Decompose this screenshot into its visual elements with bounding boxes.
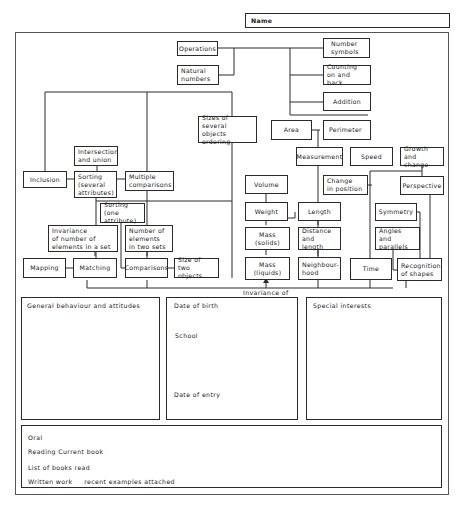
node-comparisons: Comparisons — [125, 258, 168, 278]
special-interests-title: Special interests — [313, 302, 371, 309]
panel-special-interests[interactable]: Special interests — [306, 297, 442, 420]
node-growth: Growth and change — [400, 147, 444, 166]
reading-label: Reading Current book — [28, 448, 103, 455]
invariance-label: Invariance of — [243, 289, 289, 296]
node-measurement: Measurement — [296, 147, 343, 166]
node-mapping: Mapping — [23, 258, 66, 278]
node-counting: Counting on and back — [323, 65, 371, 85]
node-angles: Angles and parallels — [375, 227, 420, 250]
written-work-label: Written work recent examples attached — [28, 478, 175, 485]
node-distance-length: Distance and length — [298, 227, 341, 250]
node-mass-solids: Mass (solids) — [245, 227, 290, 250]
node-number-symbols: Number symbols — [323, 38, 370, 58]
date-of-birth-label: Date of birth — [174, 302, 218, 309]
node-number-elements: Number of elements in two sets — [125, 225, 173, 252]
node-multiple-comparisons: Multiple comparisons — [125, 171, 174, 191]
panel-general-title: General behaviour and attitudes — [27, 302, 140, 309]
node-time: Time — [350, 258, 392, 280]
node-matching: Matching — [73, 258, 117, 278]
node-operations: Operations — [177, 41, 218, 56]
node-speed: Speed — [350, 147, 393, 166]
school-label: School — [175, 332, 198, 339]
node-addition: Addition — [323, 92, 371, 111]
node-length: Length — [298, 202, 341, 221]
node-area: Area — [271, 120, 312, 140]
panel-personal-details[interactable]: Date of birth School Date of entry — [166, 297, 298, 420]
node-size-two: Size of two objects — [174, 258, 219, 278]
node-sorting-one: Sorting (one attribute) — [100, 203, 145, 223]
date-of-entry-label: Date of entry — [174, 391, 220, 398]
panel-general-behaviour[interactable]: General behaviour and attitudes — [21, 297, 160, 420]
node-mass-liquids: Mass (liquids) — [245, 257, 290, 280]
node-sizes-several: Sizes of several objects ordering — [198, 116, 257, 143]
node-perimeter: Perimeter — [323, 120, 371, 140]
node-intersection: Intersection and union — [74, 146, 118, 166]
oral-label: Oral — [28, 434, 43, 441]
node-sorting-several: Sorting (several attributes) — [74, 171, 117, 198]
node-natural-numbers: Natural numbers — [177, 65, 219, 85]
node-inclusion: Inclusion — [23, 171, 67, 188]
node-change-position: Change in position — [323, 175, 368, 195]
panel-language[interactable]: Oral Reading Current book List of books … — [21, 425, 442, 488]
node-symmetry: Symmetry — [375, 203, 417, 221]
node-volume: Volume — [245, 175, 288, 194]
node-recognition: Recognition of shapes — [397, 258, 442, 281]
node-invariance-number: Invariance of number of elements in a se… — [48, 225, 118, 252]
node-perspective: Perspective — [400, 176, 444, 195]
books-read-label: List of books read — [28, 464, 90, 471]
node-neighbourhood: Neighbour- hood — [298, 257, 341, 280]
node-weight: Weight — [245, 202, 288, 221]
